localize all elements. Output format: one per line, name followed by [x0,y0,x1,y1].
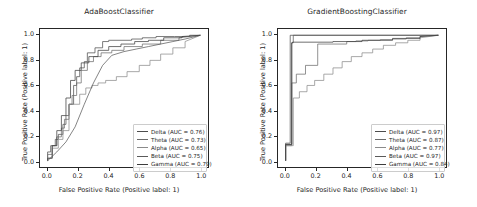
legend-line-icon [137,147,148,148]
legend-label: Gamma (AUC = 0.79) [151,160,212,168]
x-tick-label: 0.0 [280,172,290,180]
x-tick [347,168,348,171]
y-tick [36,136,39,137]
legend-left: Delta (AUC = 0.76)Theta (AUC = 0.73)Alph… [133,124,207,172]
legend-item-theta: Theta (AUC = 0.73) [137,136,203,144]
legend-line-icon [375,139,386,140]
x-tick-label: 0.4 [341,172,351,180]
x-tick [109,168,110,171]
legend-item-alpha: Alpha (AUC = 0.77) [375,144,441,152]
legend-line-icon [137,131,148,132]
x-tick-label: 0.2 [73,172,83,180]
x-tick-label: 1.0 [196,172,206,180]
legend-label: Theta (AUC = 0.87) [389,136,444,144]
roc-comparison-figure: AdaBoostClassifier 0.00.20.40.60.81.00.0… [0,0,477,207]
legend-label: Gamma (AUC = 0.84) [389,160,450,168]
x-tick-label: 0.6 [134,172,144,180]
legend-line-icon [375,147,386,148]
legend-label: Delta (AUC = 0.76) [151,128,205,136]
legend-item-delta: Delta (AUC = 0.97) [375,128,441,136]
legend-line-icon [375,156,386,157]
legend-line-icon [375,131,386,132]
y-axis-label-right: True Positive Rate (Positive label: 1) [259,32,267,172]
legend-item-theta: Theta (AUC = 0.87) [375,136,441,144]
legend-label: Alpha (AUC = 0.77) [389,144,444,152]
x-tick-label: 0.4 [103,172,113,180]
legend-item-alpha: Alpha (AUC = 0.65) [137,144,203,152]
y-tick [36,162,39,163]
y-tick [36,111,39,112]
y-tick [36,85,39,86]
legend-label: Theta (AUC = 0.73) [151,136,206,144]
chart-title-left: AdaBoostClassifier [0,7,238,16]
y-tick [36,34,39,35]
y-tick [274,162,277,163]
x-tick-label: 1.0 [434,172,444,180]
x-tick [316,168,317,171]
y-tick [274,136,277,137]
y-axis-label-left: True Positive Rate (Positive label: 1) [21,32,29,172]
legend-line-icon [137,164,148,165]
legend-label: Delta (AUC = 0.97) [389,128,443,136]
subplot-gradientboosting: GradientBoostingClassifier 0.00.20.40.60… [238,0,476,207]
legend-label: Alpha (AUC = 0.65) [151,144,206,152]
x-axis-label-left: False Positive Rate (Positive label: 1) [0,186,238,194]
legend-item-gamma: Gamma (AUC = 0.79) [137,160,203,168]
x-tick-label: 0.0 [42,172,52,180]
legend-label: Beta (AUC = 0.75) [151,152,203,160]
x-tick-label: 0.8 [165,172,175,180]
x-tick [285,168,286,171]
y-tick [274,34,277,35]
y-tick [36,60,39,61]
x-axis-label-right: False Positive Rate (Positive label: 1) [238,186,476,194]
legend-line-icon [375,164,386,165]
chart-title-right: GradientBoostingClassifier [238,7,476,16]
x-tick [78,168,79,171]
legend-line-icon [137,156,148,157]
x-tick-label: 0.6 [372,172,382,180]
x-tick [47,168,48,171]
legend-item-delta: Delta (AUC = 0.76) [137,128,203,136]
x-tick-label: 0.8 [403,172,413,180]
x-tick-label: 0.2 [311,172,321,180]
legend-label: Beta (AUC = 0.97) [389,152,441,160]
subplot-adaboost: AdaBoostClassifier 0.00.20.40.60.81.00.0… [0,0,238,207]
legend-right: Delta (AUC = 0.97)Theta (AUC = 0.87)Alph… [371,124,445,172]
y-tick [274,111,277,112]
legend-line-icon [137,139,148,140]
legend-item-beta: Beta (AUC = 0.97) [375,152,441,160]
y-tick [274,85,277,86]
y-tick [274,60,277,61]
legend-item-beta: Beta (AUC = 0.75) [137,152,203,160]
legend-item-gamma: Gamma (AUC = 0.84) [375,160,441,168]
